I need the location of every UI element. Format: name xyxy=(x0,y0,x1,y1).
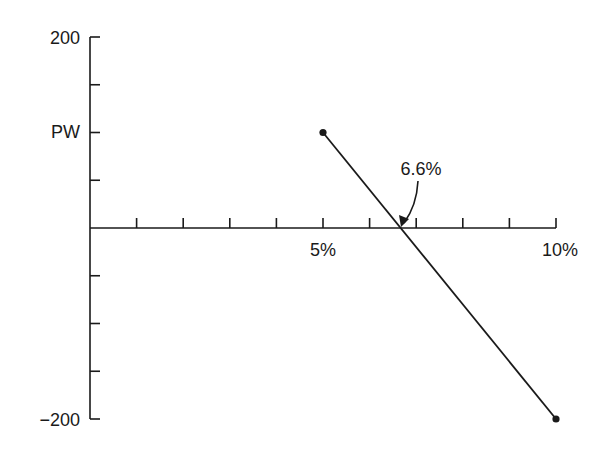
data-point xyxy=(552,415,559,422)
y-tick-label-200: 200 xyxy=(50,28,80,48)
annotation-label: 6.6% xyxy=(400,159,441,179)
annotation-arrow xyxy=(399,181,418,227)
x-tick-label-10: 10% xyxy=(542,240,578,260)
data-point xyxy=(319,129,326,136)
x-tick-label-5: 5% xyxy=(310,240,336,260)
y-axis-label-pw: PW xyxy=(51,122,80,142)
chart: 200 PW −200 5% 10% 6.6% xyxy=(0,0,603,452)
x-ticks xyxy=(137,218,556,228)
y-tick-label-minus-200: −200 xyxy=(39,410,80,430)
